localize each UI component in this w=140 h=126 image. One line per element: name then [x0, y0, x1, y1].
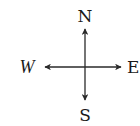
south-label: S	[79, 105, 91, 125]
west-label: W	[20, 57, 37, 77]
compass-rose: N S W E	[0, 0, 140, 126]
north-label: N	[78, 6, 93, 26]
east-label: E	[127, 57, 139, 77]
